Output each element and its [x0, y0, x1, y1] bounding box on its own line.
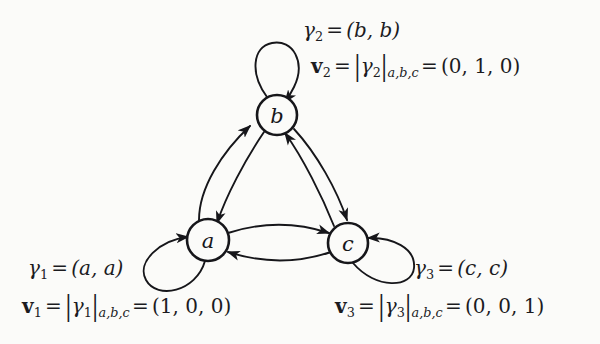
v3-subscript: 3 [347, 305, 355, 320]
edge-a-to-c [228, 225, 329, 233]
v1-abs-gamma: γ [72, 294, 84, 318]
label-gamma2-definition: γ2=(b, b) [303, 20, 400, 43]
v2-equals-2: = [419, 54, 441, 78]
gamma2-subscript: 2 [315, 29, 323, 44]
v1-equals: = [42, 294, 65, 318]
gamma1-subscript: 1 [40, 267, 48, 282]
v3-abs-open: | [378, 293, 385, 320]
gamma3-subscript: 3 [426, 267, 434, 282]
gamma2-symbol: γ [303, 18, 315, 42]
graph-drawing [0, 0, 600, 344]
label-v2-definition: v2=|γ2|a,b,c=(0, 1, 0) [311, 56, 520, 79]
edge-b-to-a [217, 132, 264, 223]
v1-abs-close: | [92, 293, 99, 320]
gamma1-value: (a, a) [71, 256, 123, 280]
edge-c-to-a [228, 252, 331, 260]
v2-basis-subscript: a,b,c [388, 65, 419, 80]
v1-equals-2: = [130, 294, 152, 318]
v1-symbol: v [22, 294, 34, 318]
v1-abs-gamma-subscript: 1 [84, 305, 92, 320]
self-loop-b [256, 43, 299, 102]
node-label-b: b [257, 106, 297, 127]
v2-abs-open: | [354, 53, 361, 80]
v2-abs-gamma-subscript: 2 [373, 65, 381, 80]
gamma1-equals: = [48, 256, 71, 280]
v3-basis-subscript: a,b,c [412, 305, 443, 320]
v3-abs-close: | [405, 293, 412, 320]
v2-abs-close: | [381, 53, 388, 80]
v3-abs-gamma: γ [385, 294, 397, 318]
v3-symbol: v [335, 294, 347, 318]
node-label-c: c [328, 234, 368, 255]
figure-canvas: a b c γ2=(b, b) v2=|γ2|a,b,c=(0, 1, 0) γ… [0, 0, 600, 344]
label-v3-definition: v3=|γ3|a,b,c=(0, 0, 1) [335, 296, 544, 319]
gamma3-equals: = [434, 256, 457, 280]
label-gamma1-definition: γ1=(a, a) [28, 258, 123, 281]
v3-equals-2: = [443, 294, 465, 318]
v2-abs-gamma: γ [361, 54, 373, 78]
v2-symbol: v [311, 54, 323, 78]
v2-value: (0, 1, 0) [441, 54, 520, 78]
label-v1-definition: v1=|γ1|a,b,c=(1, 0, 0) [22, 296, 231, 319]
v1-subscript: 1 [34, 305, 42, 320]
v1-value: (1, 0, 0) [152, 294, 231, 318]
v2-equals: = [331, 54, 354, 78]
gamma3-value: (c, c) [457, 256, 508, 280]
label-gamma3-definition: γ3=(c, c) [414, 258, 508, 281]
v3-value: (0, 0, 1) [465, 294, 544, 318]
v1-abs-open: | [65, 293, 72, 320]
node-label-a: a [188, 231, 228, 252]
v3-abs-gamma-subscript: 3 [397, 305, 405, 320]
edge-b-to-c [294, 129, 347, 220]
gamma2-equals: = [323, 18, 346, 42]
v1-basis-subscript: a,b,c [99, 305, 130, 320]
v3-equals: = [355, 294, 378, 318]
gamma2-value: (b, b) [346, 18, 400, 42]
v2-subscript: 2 [323, 65, 331, 80]
gamma3-symbol: γ [414, 256, 426, 280]
gamma1-symbol: γ [28, 256, 40, 280]
